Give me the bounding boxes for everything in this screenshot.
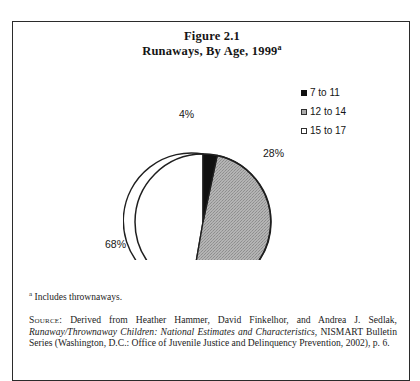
- footnote: a Includes thrownaways.: [29, 291, 397, 303]
- figure-frame: Figure 2.1 Runaways, By Age, 1999a 7 to …: [12, 21, 410, 381]
- source-label: Source:: [29, 314, 62, 325]
- pie-value-label-15-to-17: 68%: [105, 238, 126, 250]
- pie-value-label-7-to-11: 4%: [179, 108, 194, 120]
- pie-slice-15-to-17[interactable]: [123, 153, 203, 260]
- source-note: Source: Derived from Heather Hammer, Dav…: [29, 314, 397, 349]
- pie-chart-svg: [123, 110, 283, 260]
- source-text-part-1: Derived from Heather Hammer, David Finke…: [62, 314, 397, 325]
- pie-chart: 4% 28% 68%: [13, 22, 411, 292]
- source-publication-title: Runaway/Thrownaway Children: National Es…: [29, 326, 315, 337]
- footnote-text: Includes thrownaways.: [32, 292, 122, 302]
- figure-notes: a Includes thrownaways. Source: Derived …: [29, 291, 397, 349]
- pie-value-label-12-to-14: 28%: [263, 147, 284, 159]
- scan-top-bleed: [0, 0, 420, 20]
